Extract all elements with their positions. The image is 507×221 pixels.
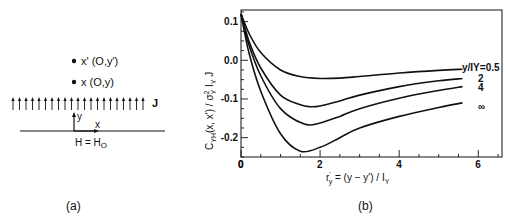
point-upper-label: x' (O,y') <box>81 55 118 67</box>
svg-text:4: 4 <box>396 159 402 170</box>
series-labels: y/IY=0.524∞ <box>462 62 500 112</box>
curves <box>241 14 462 152</box>
svg-text:0: 0 <box>238 159 244 170</box>
y-axis-ticks: 0.10.0-0.1-0.20 <box>221 12 248 170</box>
caption-a: (a) <box>66 199 81 213</box>
svg-text:6: 6 <box>475 159 481 170</box>
svg-text:0.1: 0.1 <box>224 16 238 27</box>
series-label-2: 4 <box>478 82 484 93</box>
series-label-3: ∞ <box>478 101 485 112</box>
point-lower-label: x (O,y) <box>81 76 114 88</box>
plot-frame <box>241 10 502 157</box>
figure: x' (O,y') x (O,y) J y x H = HO (a) 0246 … <box>0 0 507 221</box>
svg-text:-0.2: -0.2 <box>221 132 239 143</box>
panel-b: 0246 0.10.0-0.1-0.20 y/IY=0.524∞ r'y = (… <box>203 10 502 213</box>
svg-text:0.0: 0.0 <box>224 55 238 66</box>
series-label-0: y/IY=0.5 <box>462 62 500 73</box>
flux-label: J <box>152 97 158 109</box>
svg-text:-0.1: -0.1 <box>221 93 239 104</box>
y-arrowhead-icon <box>72 112 76 117</box>
caption-b: (b) <box>358 199 373 213</box>
x-axis-ticks: 0246 <box>238 150 498 170</box>
svg-text:2: 2 <box>317 159 323 170</box>
y-axis-label: CYH(x, x') / σ2Y IY J <box>203 72 217 150</box>
curve-0 <box>241 14 462 79</box>
point-x-marker <box>72 80 76 84</box>
panel-a: x' (O,y') x (O,y) J y x H = HO (a) <box>11 55 165 213</box>
point-x-prime-marker <box>72 59 76 63</box>
axis-x-label: x <box>95 119 100 130</box>
axis-y-label: y <box>77 111 82 122</box>
boundary-label: H = HO <box>75 137 107 150</box>
curve-2 <box>241 14 462 125</box>
curve-3 <box>241 14 462 152</box>
x-axis-label: r'y = (y − y') / IY <box>326 171 390 186</box>
flux-arrows-icon <box>11 97 144 110</box>
